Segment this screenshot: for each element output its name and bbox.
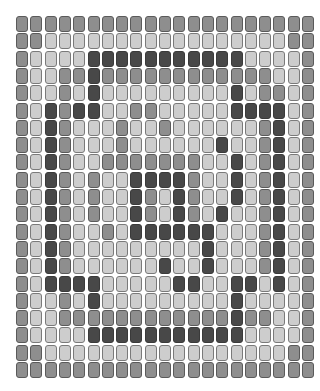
tile-light-gray[interactable] xyxy=(102,241,114,257)
tile-light-gray[interactable] xyxy=(288,310,300,326)
tile-dark-gray[interactable] xyxy=(273,241,285,257)
tile-mid-gray[interactable] xyxy=(130,16,142,32)
tile-dark-gray[interactable] xyxy=(45,154,57,170)
tile-light-gray[interactable] xyxy=(45,345,57,361)
tile-dark-gray[interactable] xyxy=(173,276,185,292)
tile-light-gray[interactable] xyxy=(231,137,243,153)
tile-light-gray[interactable] xyxy=(159,345,171,361)
tile-light-gray[interactable] xyxy=(231,120,243,136)
tile-mid-gray[interactable] xyxy=(59,362,71,378)
tile-mid-gray[interactable] xyxy=(59,68,71,84)
tile-light-gray[interactable] xyxy=(145,85,157,101)
tile-dark-gray[interactable] xyxy=(231,51,243,67)
tile-mid-gray[interactable] xyxy=(116,362,128,378)
tile-mid-gray[interactable] xyxy=(145,362,157,378)
tile-dark-gray[interactable] xyxy=(173,206,185,222)
tile-dark-gray[interactable] xyxy=(173,327,185,343)
tile-light-gray[interactable] xyxy=(273,345,285,361)
tile-light-gray[interactable] xyxy=(216,85,228,101)
tile-dark-gray[interactable] xyxy=(202,241,214,257)
tile-mid-gray[interactable] xyxy=(116,16,128,32)
tile-dark-gray[interactable] xyxy=(216,137,228,153)
tile-mid-gray[interactable] xyxy=(259,224,271,240)
tile-light-gray[interactable] xyxy=(173,103,185,119)
tile-mid-gray[interactable] xyxy=(173,68,185,84)
tile-dark-gray[interactable] xyxy=(45,276,57,292)
tile-light-gray[interactable] xyxy=(245,172,257,188)
tile-light-gray[interactable] xyxy=(288,189,300,205)
tile-light-gray[interactable] xyxy=(45,310,57,326)
tile-mid-gray[interactable] xyxy=(59,85,71,101)
tile-mid-gray[interactable] xyxy=(16,293,28,309)
tile-dark-gray[interactable] xyxy=(88,293,100,309)
tile-light-gray[interactable] xyxy=(130,137,142,153)
tile-dark-gray[interactable] xyxy=(45,172,57,188)
tile-light-gray[interactable] xyxy=(30,85,42,101)
tile-mid-gray[interactable] xyxy=(116,310,128,326)
tile-light-gray[interactable] xyxy=(188,258,200,274)
tile-light-gray[interactable] xyxy=(188,293,200,309)
tile-light-gray[interactable] xyxy=(30,189,42,205)
tile-dark-gray[interactable] xyxy=(102,327,114,343)
tile-light-gray[interactable] xyxy=(231,241,243,257)
tile-light-gray[interactable] xyxy=(88,33,100,49)
tile-dark-gray[interactable] xyxy=(273,103,285,119)
tile-light-gray[interactable] xyxy=(202,293,214,309)
tile-light-gray[interactable] xyxy=(45,33,57,49)
tile-light-gray[interactable] xyxy=(188,345,200,361)
tile-light-gray[interactable] xyxy=(30,258,42,274)
tile-dark-gray[interactable] xyxy=(130,51,142,67)
tile-light-gray[interactable] xyxy=(231,345,243,361)
tile-mid-gray[interactable] xyxy=(88,206,100,222)
tile-mid-gray[interactable] xyxy=(73,68,85,84)
tile-mid-gray[interactable] xyxy=(88,189,100,205)
tile-light-gray[interactable] xyxy=(173,345,185,361)
tile-light-gray[interactable] xyxy=(259,51,271,67)
tile-dark-gray[interactable] xyxy=(231,85,243,101)
tile-light-gray[interactable] xyxy=(73,120,85,136)
tile-light-gray[interactable] xyxy=(216,258,228,274)
tile-dark-gray[interactable] xyxy=(45,241,57,257)
tile-light-gray[interactable] xyxy=(288,241,300,257)
tile-mid-gray[interactable] xyxy=(216,68,228,84)
tile-light-gray[interactable] xyxy=(73,345,85,361)
tile-mid-gray[interactable] xyxy=(273,16,285,32)
tile-light-gray[interactable] xyxy=(116,224,128,240)
tile-mid-gray[interactable] xyxy=(16,327,28,343)
tile-light-gray[interactable] xyxy=(116,172,128,188)
tile-mid-gray[interactable] xyxy=(302,345,314,361)
tile-mid-gray[interactable] xyxy=(302,224,314,240)
tile-mid-gray[interactable] xyxy=(16,33,28,49)
tile-dark-gray[interactable] xyxy=(202,51,214,67)
tile-mid-gray[interactable] xyxy=(188,189,200,205)
tile-mid-gray[interactable] xyxy=(30,345,42,361)
tile-light-gray[interactable] xyxy=(259,33,271,49)
tile-dark-gray[interactable] xyxy=(130,189,142,205)
tile-mid-gray[interactable] xyxy=(302,276,314,292)
tile-light-gray[interactable] xyxy=(159,137,171,153)
tile-dark-gray[interactable] xyxy=(273,258,285,274)
tile-mid-gray[interactable] xyxy=(302,293,314,309)
tile-mid-gray[interactable] xyxy=(102,16,114,32)
tile-dark-gray[interactable] xyxy=(273,120,285,136)
tile-light-gray[interactable] xyxy=(288,137,300,153)
tile-mid-gray[interactable] xyxy=(16,241,28,257)
tile-light-gray[interactable] xyxy=(288,258,300,274)
tile-mid-gray[interactable] xyxy=(16,362,28,378)
tile-mid-gray[interactable] xyxy=(259,154,271,170)
tile-light-gray[interactable] xyxy=(116,189,128,205)
tile-light-gray[interactable] xyxy=(202,345,214,361)
tile-dark-gray[interactable] xyxy=(102,51,114,67)
tile-dark-gray[interactable] xyxy=(45,206,57,222)
tile-mid-gray[interactable] xyxy=(188,362,200,378)
tile-dark-gray[interactable] xyxy=(202,224,214,240)
tile-dark-gray[interactable] xyxy=(159,51,171,67)
tile-light-gray[interactable] xyxy=(30,206,42,222)
tile-light-gray[interactable] xyxy=(116,206,128,222)
tile-light-gray[interactable] xyxy=(245,137,257,153)
tile-mid-gray[interactable] xyxy=(159,16,171,32)
tile-light-gray[interactable] xyxy=(245,258,257,274)
tile-mid-gray[interactable] xyxy=(116,137,128,153)
tile-mid-gray[interactable] xyxy=(145,103,157,119)
tile-light-gray[interactable] xyxy=(202,120,214,136)
